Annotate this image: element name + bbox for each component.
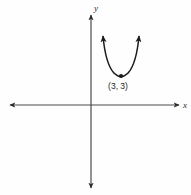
graph-figure: y x (3, 3) <box>0 0 191 195</box>
vertex-coordinate-label: (3, 3) <box>108 81 128 91</box>
coordinate-plane: y x (3, 3) <box>0 0 191 195</box>
y-axis-label: y <box>93 3 98 13</box>
x-axis-label: x <box>182 100 187 110</box>
parabola-curve <box>103 36 139 77</box>
vertex-point <box>119 74 123 78</box>
